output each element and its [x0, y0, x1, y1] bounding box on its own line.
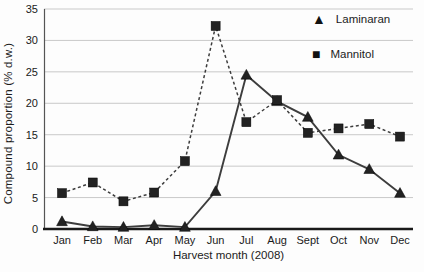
legend-label-mannitol: Mannitol: [330, 48, 373, 60]
data-point-mannitol: [273, 96, 282, 105]
legend: ▲ Laminaran ■ Mannitol: [312, 12, 390, 61]
y-tick-label: 30: [26, 34, 38, 46]
data-point-laminaran: [57, 216, 68, 226]
x-tick-label: Apr: [146, 234, 163, 246]
y-axis-title: Compound proportion (% d.w.): [2, 14, 17, 234]
data-point-mannitol: [58, 189, 67, 198]
triangle-marker-icon: ▲: [312, 12, 326, 26]
y-tick-label: 5: [32, 192, 38, 204]
x-tick-label: Jul: [239, 234, 253, 246]
x-tick-label: Nov: [359, 234, 379, 246]
x-tick-label: Dec: [390, 234, 410, 246]
x-axis-title: Harvest month (2008): [44, 249, 413, 261]
data-point-laminaran: [241, 69, 252, 79]
y-tick-label: 25: [26, 66, 38, 78]
x-tick-label: Aug: [267, 234, 287, 246]
x-tick-label: Jun: [207, 234, 225, 246]
y-tick-label: 20: [26, 97, 38, 109]
data-point-mannitol: [396, 132, 405, 141]
square-marker-icon: ■: [312, 47, 320, 61]
data-point-mannitol: [334, 124, 343, 133]
data-point-mannitol: [365, 120, 374, 129]
y-tick-label: 0: [32, 223, 38, 235]
y-tick-label: 35: [26, 3, 38, 15]
legend-label-laminaran: Laminaran: [336, 13, 390, 25]
x-tick-label: May: [175, 234, 196, 246]
legend-item-laminaran: ▲ Laminaran: [312, 12, 390, 26]
data-point-laminaran: [302, 112, 313, 122]
x-tick-label: Mar: [114, 234, 133, 246]
data-point-mannitol: [119, 197, 128, 206]
x-tick-label: Oct: [330, 234, 347, 246]
y-tick-label: 10: [26, 160, 38, 172]
data-point-mannitol: [303, 128, 312, 137]
data-point-mannitol: [150, 188, 159, 197]
data-point-mannitol: [211, 21, 220, 30]
x-tick-label: Jan: [53, 234, 71, 246]
line-chart-figure: 05101520253035JanFebMarAprMayJunJulAugSe…: [0, 0, 424, 272]
data-point-mannitol: [88, 178, 97, 187]
data-point-mannitol: [242, 118, 251, 127]
data-point-laminaran: [210, 186, 221, 196]
data-point-mannitol: [180, 157, 189, 166]
data-point-laminaran: [364, 164, 375, 174]
y-tick-label: 15: [26, 129, 38, 141]
series-line-laminaran: [62, 75, 400, 227]
legend-item-mannitol: ■ Mannitol: [312, 47, 390, 61]
x-tick-label: Sept: [296, 234, 319, 246]
x-tick-label: Feb: [83, 234, 102, 246]
